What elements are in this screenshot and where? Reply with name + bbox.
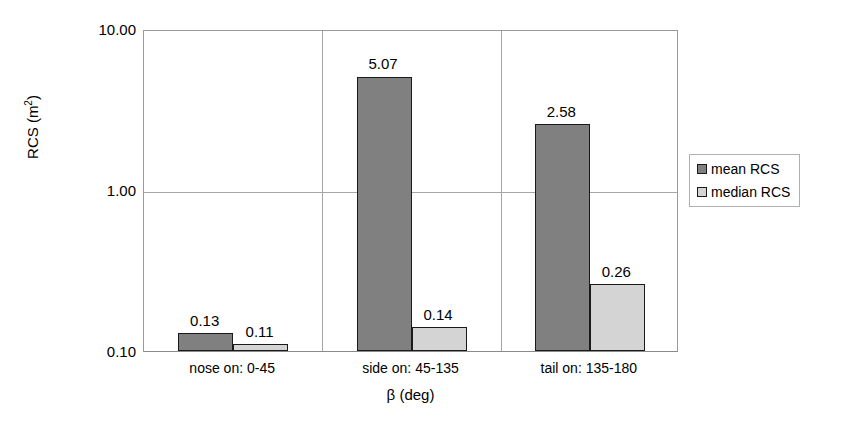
x-axis-tick-label: side on: 45-135	[321, 360, 499, 376]
y-axis-tick-labels: 10.001.000.10	[62, 0, 136, 432]
y-axis-tick-label: 1.00	[66, 183, 136, 198]
gridline-vertical	[322, 31, 323, 351]
bar-median-0	[233, 344, 288, 351]
legend-swatch-icon	[697, 164, 707, 174]
y-axis-title: RCS (m2)	[23, 47, 41, 207]
bar-chart: RCS (m2) 10.001.000.10 nose on: 0-45side…	[0, 0, 866, 432]
y-axis-tick-label: 10.00	[66, 22, 136, 37]
bar-value-label: 0.11	[222, 324, 297, 339]
plot-area	[143, 30, 678, 352]
bar-value-label: 5.07	[346, 56, 421, 71]
x-axis-tick-label: nose on: 0-45	[143, 360, 321, 376]
legend-item-label: mean RCS	[711, 162, 779, 176]
bar-mean-2	[535, 124, 590, 351]
y-axis-title-exponent: 2	[23, 100, 34, 106]
y-axis-title-close: )	[24, 95, 41, 100]
bar-value-label: 0.26	[579, 264, 654, 279]
legend-item-label: median RCS	[711, 185, 790, 199]
bar-median-2	[590, 284, 645, 351]
bar-value-label: 2.58	[524, 104, 599, 119]
legend-item: mean RCS	[697, 162, 790, 176]
x-axis-tick-label: tail on: 135-180	[500, 360, 678, 376]
bar-value-label: 0.14	[401, 307, 476, 322]
legend-swatch-icon	[697, 187, 707, 197]
y-axis-tick-label: 0.10	[66, 344, 136, 359]
chart-legend: mean RCSmedian RCS	[689, 154, 800, 207]
legend-item: median RCS	[697, 185, 790, 199]
bar-median-1	[412, 327, 467, 351]
gridline-vertical	[501, 31, 502, 351]
y-axis-title-base: RCS (m	[24, 106, 41, 159]
x-axis-title: β (deg)	[143, 386, 678, 403]
